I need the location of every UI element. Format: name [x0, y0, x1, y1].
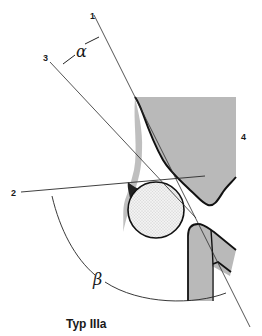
- label-line-1: 1: [90, 11, 95, 21]
- label-line-2: 2: [11, 188, 16, 198]
- alpha-symbol: α: [76, 42, 87, 61]
- geometry-diagram: 1 3 2 4 α β Typ IIIa: [0, 0, 262, 336]
- line-2: [21, 176, 205, 192]
- label-line-3: 3: [43, 53, 48, 63]
- alpha-dash-upper: [85, 37, 99, 44]
- beta-symbol: β: [92, 270, 102, 289]
- stippled-circle: [128, 182, 184, 238]
- alpha-dash-lower: [63, 55, 75, 64]
- label-part-4: 4: [241, 132, 246, 142]
- figure-caption: Typ IIIa: [66, 317, 107, 331]
